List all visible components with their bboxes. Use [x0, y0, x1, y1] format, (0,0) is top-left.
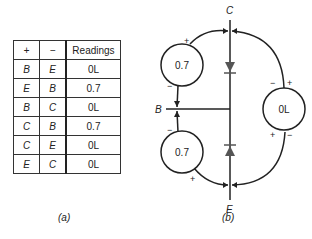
meter-top-left-reading: 0.7 — [175, 60, 189, 71]
transistor-test-diagram: C B E 0.7 0.7 0L + − − + − + + − — [0, 0, 312, 239]
svg-text:+: + — [184, 36, 189, 46]
svg-text:+: + — [287, 78, 292, 88]
terminal-e: E — [226, 204, 233, 215]
terminal-c: C — [226, 5, 234, 16]
svg-text:+: + — [270, 130, 275, 140]
meter-right-reading: 0L — [278, 104, 290, 115]
svg-text:−: − — [287, 130, 292, 140]
svg-text:−: − — [167, 81, 172, 91]
meter-bottom-left-reading: 0.7 — [175, 147, 189, 158]
svg-text:−: − — [270, 78, 275, 88]
diode-bc-icon — [225, 62, 235, 72]
svg-text:−: − — [167, 125, 172, 135]
terminal-b: B — [155, 104, 162, 115]
svg-text:+: + — [190, 174, 195, 184]
diode-be-icon — [225, 146, 235, 156]
